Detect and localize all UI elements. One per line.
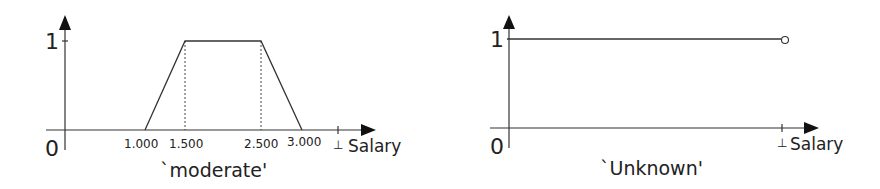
origin-label: 0 (45, 136, 59, 161)
end-mark: ⊥ (777, 136, 787, 150)
y-axis-arrow-icon (503, 15, 515, 29)
x-axis-arrow-icon (804, 122, 819, 134)
y-label-one: 1 (45, 29, 59, 54)
x-axis-arrow-icon (361, 124, 376, 136)
x-tick-3000: 3.000 (287, 135, 321, 149)
moderate-chart (46, 15, 376, 150)
y-label-one: 1 (490, 27, 504, 52)
open-endpoint-icon (782, 37, 789, 44)
x-axis-label: Salary (790, 134, 843, 154)
y-axis-arrow-icon (59, 15, 71, 30)
x-tick-1000: 1.000 (124, 137, 158, 151)
x-tick-2500: 2.500 (244, 137, 278, 151)
end-mark: ⊥ (333, 138, 343, 152)
charts-canvas (0, 0, 880, 189)
x-tick-1500: 1.500 (169, 137, 203, 151)
trapezoid-membership (145, 41, 302, 130)
origin-label: 0 (490, 134, 504, 159)
caption-unknown: `Unknown' (600, 157, 703, 179)
unknown-chart (490, 15, 819, 148)
caption-moderate: `moderate' (160, 159, 267, 181)
x-axis-label: Salary (348, 136, 401, 156)
